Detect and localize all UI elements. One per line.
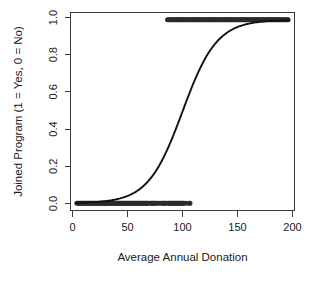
y-tick-label: 0.6 <box>47 84 59 99</box>
y-tick-label: 1.0 <box>47 10 59 25</box>
plot-background <box>0 0 317 281</box>
x-axis-title: Average Annual Donation <box>117 251 247 263</box>
x-tick-label: 100 <box>173 221 191 233</box>
y-tick-label: 0.8 <box>47 47 59 62</box>
y-axis-title: Joined Program (1 = Yes, 0 = No) <box>12 26 24 197</box>
x-tick-label: 150 <box>228 221 246 233</box>
y-tick-label: 0.4 <box>47 121 59 136</box>
x-tick-label: 50 <box>121 221 133 233</box>
logistic-regression-plot: 0 50 100 150 200 0.0 0.2 0.4 0.6 0.8 1.0… <box>0 0 317 281</box>
y-tick-label: 0.2 <box>47 159 59 174</box>
x-tick-label: 200 <box>283 221 301 233</box>
y-tick-label: 0.0 <box>47 196 59 211</box>
chart-canvas: 0 50 100 150 200 0.0 0.2 0.4 0.6 0.8 1.0… <box>0 0 317 281</box>
data-point <box>187 201 192 206</box>
x-tick-label: 0 <box>69 221 75 233</box>
